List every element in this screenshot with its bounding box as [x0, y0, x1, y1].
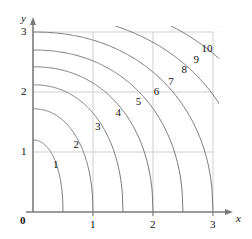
contour-label-8: 8	[181, 64, 187, 75]
y-tick-label-1: 1	[21, 146, 27, 157]
contour-curve-5	[33, 50, 183, 212]
contour-plot-figure: y x 0 123 123 12345678910	[0, 0, 252, 239]
y-axis-label: y	[21, 13, 26, 24]
contour-label-2: 2	[73, 139, 79, 150]
contour-curve-1	[33, 140, 63, 212]
contour-label-1: 1	[53, 159, 59, 170]
contour-curve-7	[33, 14, 249, 212]
contour-label-3: 3	[95, 121, 101, 132]
x-tick-label-2: 2	[150, 219, 156, 230]
x-axis-arrowhead	[225, 209, 233, 215]
y-tick-label-2: 2	[21, 86, 27, 97]
contour-curve-2	[33, 109, 93, 212]
origin-tick-label: 0	[20, 215, 26, 226]
x-tick-label-1: 1	[90, 219, 96, 230]
y-axis-arrowhead	[30, 17, 36, 25]
contour-label-10: 10	[202, 43, 213, 54]
contour-label-9: 9	[193, 54, 199, 65]
contour-label-4: 4	[115, 107, 121, 118]
contour-curve-6	[33, 32, 213, 212]
contour-label-6: 6	[154, 86, 160, 97]
gridlines	[33, 32, 213, 212]
x-axis-label: x	[236, 213, 241, 224]
y-tick-label-3: 3	[21, 26, 27, 37]
plot-canvas	[0, 0, 252, 239]
x-tick-label-3: 3	[210, 219, 216, 230]
contour-label-5: 5	[136, 96, 142, 107]
contour-label-7: 7	[168, 76, 174, 87]
